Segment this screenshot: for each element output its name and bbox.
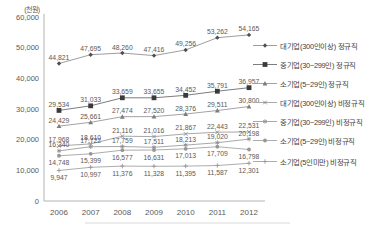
data-label: 19,020	[207, 133, 228, 140]
data-label: 18,213	[175, 136, 196, 143]
wage-by-firm-size-line-chart: 010,00020,00030,00040,00050,00060,000200…	[0, 0, 379, 229]
data-label: 17,013	[175, 152, 196, 159]
legend-label: 소기업(5~29인) 비정규직	[280, 135, 355, 146]
legend-label: 중기업(30~299인) 비정규직	[280, 116, 363, 127]
circle-marker-icon	[263, 138, 267, 142]
data-label: 16,340	[49, 141, 70, 148]
legend-item: 중기업(30~299인) 비정규직	[253, 116, 363, 126]
y-axis-tick-label: 0	[35, 197, 39, 206]
circle-marker-icon	[247, 148, 251, 152]
data-label: 11,587	[207, 169, 228, 176]
y-axis-tick-label: 50,000	[16, 43, 39, 52]
data-label: 22,443	[207, 123, 228, 130]
legend-marker-x-icon	[253, 98, 277, 107]
plus-marker-icon	[88, 165, 92, 169]
legend-item: 소기업(5~29인) 정규직	[253, 78, 348, 88]
legend-item: 소기업(5~29인) 비정규직	[253, 135, 355, 145]
square-marker-icon	[263, 62, 268, 67]
legend-item: 소기업(5인미만) 비정규직	[253, 156, 357, 166]
chart-legend: 대기업(300인이상) 정규직중기업(30~299인) 정규직소기업(5~29인…	[253, 0, 379, 229]
legend-label: 소기업(5~29인) 정규직	[280, 78, 348, 89]
data-label: 16,577	[112, 154, 133, 161]
circle-marker-icon	[152, 148, 156, 152]
data-label: 27,474	[112, 107, 133, 114]
diamond-marker-icon	[263, 43, 267, 47]
legend-item: 중기업(30~299인) 정규직	[253, 59, 356, 69]
data-label: 21,867	[175, 124, 196, 131]
data-label: 44,821	[49, 54, 70, 61]
circle-marker-icon	[215, 145, 219, 149]
data-label: 21,016	[144, 127, 165, 134]
plus-marker-icon	[215, 163, 219, 167]
square-marker-icon	[183, 93, 188, 98]
data-label: 11,395	[176, 170, 197, 177]
legend-item: 대기업(300인이상) 정규직	[253, 40, 358, 50]
square-marker-icon	[215, 89, 220, 94]
data-label: 27,520	[144, 107, 165, 114]
circle-marker-icon	[89, 152, 93, 156]
plus-marker-icon	[183, 164, 187, 168]
data-label: 31,033	[80, 96, 101, 103]
data-label: 53,262	[207, 28, 228, 35]
data-label: 16,631	[144, 154, 165, 161]
legend-marker-plus-icon	[253, 157, 277, 166]
plus-marker-icon	[152, 164, 156, 168]
data-label: 17,511	[144, 138, 165, 145]
data-label: 35,791	[207, 82, 228, 89]
plus-marker-icon	[263, 159, 267, 163]
data-label: 34,452	[175, 86, 196, 93]
data-label: 11,376	[112, 170, 133, 177]
legend-item: 대기업(300인이상) 비정규직	[253, 97, 365, 107]
plus-marker-icon	[247, 161, 251, 165]
legend-label: 대기업(300인이상) 비정규직	[280, 97, 365, 108]
x-axis-tick-label: 2006	[50, 208, 68, 217]
data-label: 10,997	[80, 171, 101, 178]
legend-marker-circle-icon	[253, 136, 277, 145]
data-label: 49,256	[175, 40, 196, 47]
data-label: 47,416	[144, 46, 165, 53]
data-label: 48,260	[112, 44, 133, 51]
data-label: 24,429	[49, 117, 70, 124]
y-axis-tick-label: 20,000	[16, 135, 39, 144]
diamond-marker-icon	[88, 53, 92, 57]
data-label: 29,534	[49, 101, 70, 108]
x-axis-tick-label: 2007	[82, 208, 100, 217]
y-axis-unit-label: (천원)	[4, 4, 40, 14]
square-marker-icon	[88, 103, 93, 108]
legend-marker-diamond-icon	[253, 41, 277, 50]
data-label: 29,511	[207, 101, 228, 108]
data-label: 21,116	[112, 127, 133, 134]
x-axis-tick-label: 2009	[145, 208, 163, 217]
x-axis-tick-label: 2008	[113, 208, 131, 217]
plus-marker-icon	[120, 164, 124, 168]
data-label: 28,376	[175, 105, 196, 112]
diamond-marker-icon	[120, 51, 124, 55]
x-axis-tick-label: 2011	[209, 208, 227, 217]
square-marker-icon	[120, 95, 125, 100]
circle-marker-icon	[57, 154, 61, 158]
data-label: 25,661	[80, 113, 101, 120]
legend-marker-square-icon	[253, 60, 277, 69]
square-marker-icon	[247, 85, 252, 90]
data-label: 47,695	[80, 45, 101, 52]
x-axis-tick-label: 2010	[177, 208, 195, 217]
square-marker-icon	[152, 95, 157, 100]
data-label: 17,759	[112, 137, 133, 144]
circle-marker-icon	[184, 147, 188, 151]
data-label: 11,328	[144, 170, 165, 177]
data-label: 17,722	[80, 137, 101, 144]
legend-label: 대기업(300인이상) 정규직	[280, 40, 358, 51]
plus-marker-icon	[57, 168, 61, 172]
legend-label: 소기업(5인미만) 비정규직	[280, 156, 357, 167]
legend-marker-triangle-icon	[253, 79, 277, 88]
circle-marker-icon	[120, 148, 124, 152]
diamond-marker-icon	[152, 53, 156, 57]
diamond-marker-icon	[57, 61, 61, 65]
y-axis-tick-label: 30,000	[16, 105, 39, 114]
square-marker-icon	[57, 108, 62, 113]
data-label: 9,947	[50, 174, 67, 181]
y-axis-tick-label: 10,000	[16, 166, 39, 175]
data-label: 14,748	[49, 159, 70, 166]
legend-label: 중기업(30~299인) 정규직	[280, 59, 356, 70]
data-label: 17,709	[207, 150, 228, 157]
